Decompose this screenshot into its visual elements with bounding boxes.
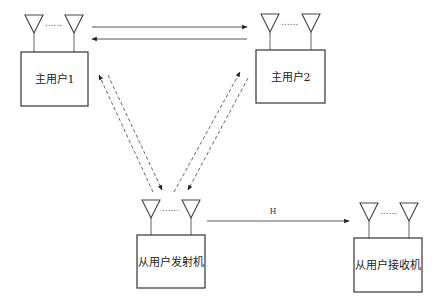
cognitive-radio-diagram: ...... 主用户1 ...... 主用户2 ...... [0,0,436,306]
primary-user-2-label: 主用户2 [271,70,311,84]
antenna-ellipsis: ...... [45,18,62,28]
antenna-icon [182,200,200,235]
antenna-ellipsis: ...... [281,17,298,27]
antenna-ellipsis: ...... [380,206,397,216]
antenna-icon [261,14,279,50]
secondary-receiver-label: 从用户接收机 [355,258,421,272]
link-pu1-to-stx [108,75,162,190]
channel-h-label: H [270,206,277,216]
link-stx-to-pu1 [99,75,153,192]
antenna-icon [142,200,160,235]
primary-user-1-label: 主用户1 [35,72,75,86]
primary-user-1-node: ...... 主用户1 [21,15,88,106]
antenna-icon [65,15,83,52]
primary-user-2-node: ...... 主用户2 [256,14,325,103]
secondary-transmitter-label: 从用户发射机 [138,255,204,269]
secondary-receiver-node: ...... 从用户接收机 [354,203,422,292]
link-pu2-to-stx [188,78,248,190]
link-stx-to-pu2 [174,72,240,192]
antenna-icon [360,203,378,238]
antenna-ellipsis: ...... [162,203,179,213]
antenna-icon [302,14,320,50]
antenna-icon [25,15,43,52]
antenna-icon [400,203,418,238]
secondary-transmitter-node: ...... 从用户发射机 [137,200,205,288]
